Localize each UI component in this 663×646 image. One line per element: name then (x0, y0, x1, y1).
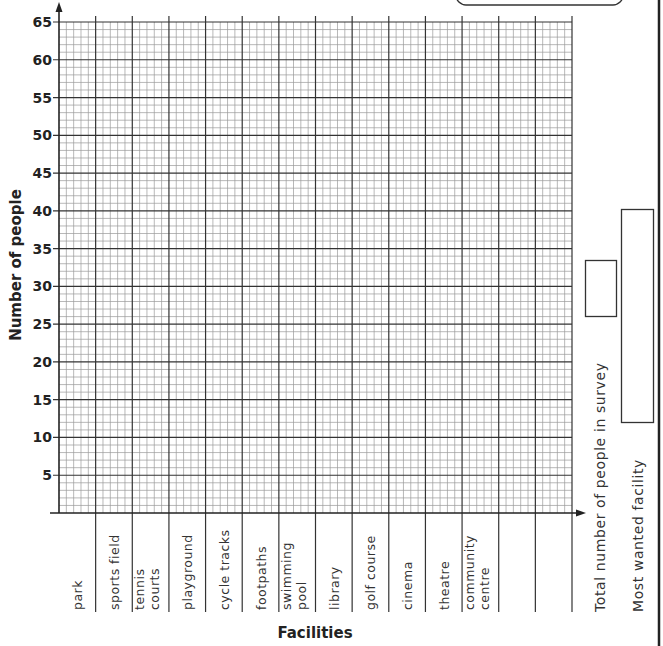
y-tick-label: 45 (33, 165, 52, 181)
category-label: playground (180, 534, 195, 610)
y-tick-label: 50 (33, 127, 53, 143)
category-label: theatre (437, 561, 452, 610)
category-label: tennis (132, 569, 147, 610)
category-label: library (327, 566, 342, 610)
category-labels: parksports fieldtenniscourtsplaygroundcy… (70, 529, 492, 610)
y-tick-label: 30 (33, 278, 53, 294)
y-tick-label: 20 (33, 354, 53, 370)
y-tick-label: 25 (33, 316, 52, 332)
y-axis-title: Number of people (7, 189, 25, 341)
category-label: footpaths (254, 546, 269, 610)
bar-chart-grid: 5101520253035404550556065 parksports fie… (0, 0, 663, 646)
y-axis-arrow-icon (56, 2, 63, 12)
category-label: cycle tracks (217, 529, 232, 610)
category-label: centre (477, 567, 492, 610)
y-axis-ticks: 5101520253035404550556065 (33, 14, 53, 483)
category-label: courts (147, 568, 162, 610)
y-tick-label: 55 (33, 90, 52, 106)
x-axis-arrow-icon (576, 510, 586, 517)
y-tick-label: 5 (42, 467, 52, 483)
x-axis-title: Facilities (277, 624, 352, 642)
y-tick-label: 35 (33, 241, 52, 257)
category-label: cinema (400, 561, 415, 610)
category-label: sports field (107, 534, 122, 610)
most-wanted-answer-box[interactable] (622, 210, 654, 423)
top-note-box (456, 0, 623, 5)
category-label: swimming (279, 542, 294, 610)
category-label: park (70, 580, 85, 610)
category-label: golf course (363, 535, 378, 610)
y-tick-label: 65 (33, 14, 52, 30)
y-tick-label: 60 (33, 52, 53, 68)
y-tick-label: 10 (33, 429, 53, 445)
y-tick-label: 15 (33, 392, 52, 408)
y-tick-label: 40 (33, 203, 53, 219)
category-label: pool (294, 581, 309, 610)
most-wanted-label: Most wanted facility (630, 459, 646, 612)
total-people-label: Total number of people in survey (592, 362, 608, 613)
total-people-answer-box[interactable] (586, 261, 617, 317)
category-label: community (462, 535, 477, 610)
